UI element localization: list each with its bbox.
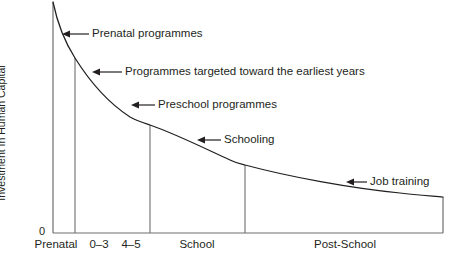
annotation-arrow-preschool-programmes: [131, 102, 155, 109]
annotation-label-job-training: Job training: [370, 175, 429, 187]
annotation-label-prenatal-programmes: Prenatal programmes: [92, 27, 203, 39]
annotation-arrow-programmes-targeted-toward-the-earliest-years: [92, 69, 122, 76]
annotation-arrow-job-training: [346, 179, 367, 186]
x-axis-label-school: School: [179, 238, 214, 250]
annotation-label-programmes-targeted-toward-the-earliest-years: Programmes targeted toward the earliest …: [125, 65, 365, 77]
annotation-label-preschool-programmes: Preschool programmes: [158, 98, 277, 110]
annotation-arrow-schooling: [197, 137, 221, 144]
chart-figure: Rate of Return to Investment In Human Ca…: [0, 0, 454, 266]
x-axis-label-post-school: Post-School: [314, 238, 376, 250]
x-axis-label-4-5: 4–5: [121, 238, 140, 250]
annotation-arrow-prenatal-programmes: [62, 31, 89, 38]
y-axis-zero-label: 0: [39, 225, 45, 237]
x-axis-label-prenatal: Prenatal: [35, 238, 78, 250]
annotation-label-schooling: Schooling: [224, 133, 275, 145]
x-axis-label-0-3: 0–3: [89, 238, 108, 250]
